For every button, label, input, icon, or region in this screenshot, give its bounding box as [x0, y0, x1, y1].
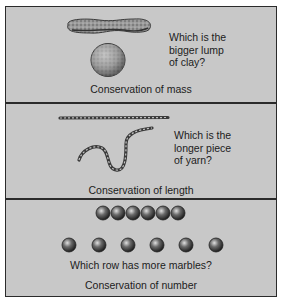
caption-conservation-of-length: Conservation of length — [6, 184, 276, 196]
marble-row-bottom — [62, 238, 223, 252]
clay-ball-icon — [89, 42, 127, 78]
marble-row-top-icon — [6, 200, 276, 260]
straight-yarn-icon — [58, 115, 170, 121]
panel-conservation-of-mass: Which is the bigger lump of clay? Conser… — [6, 7, 276, 102]
yarn-question: Which is the longer piece of yarn? — [174, 129, 231, 167]
conservation-tasks-figure: Which is the bigger lump of clay? Conser… — [5, 6, 277, 297]
caption-conservation-of-number: Conservation of number — [6, 279, 276, 291]
marbles-question: Which row has more marbles? — [6, 259, 276, 271]
panel-conservation-of-number: Which row has more marbles? Conservation… — [6, 200, 276, 296]
clay-sausage-icon — [64, 16, 154, 38]
panel-conservation-of-length: Which is the longer piece of yarn? Conse… — [6, 104, 276, 199]
caption-conservation-of-mass: Conservation of mass — [6, 83, 276, 95]
clay-question: Which is the bigger lump of clay? — [169, 31, 226, 69]
wavy-yarn-icon — [74, 124, 159, 174]
